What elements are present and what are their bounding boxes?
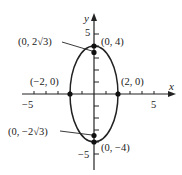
y-axis-arrow-icon (91, 13, 97, 21)
label-bottom-focus: (0, −2√3) (8, 126, 48, 138)
y-axis-label: y (83, 12, 89, 24)
label-left-covertex: (−2, 0) (30, 76, 59, 88)
point-top-vertex (91, 43, 96, 48)
point-bottom-vertex (91, 139, 96, 144)
x-axis-label: x (168, 80, 174, 92)
label-right-covertex: (2, 0) (121, 76, 144, 88)
tick-label-y-pos5: 5 (85, 27, 90, 38)
tick-label-x-neg5: −5 (22, 99, 33, 110)
x-axis (22, 91, 176, 97)
point-bottom-focus (91, 133, 96, 138)
y-axis (91, 13, 99, 170)
tick-label-y-neg5: −5 (78, 149, 89, 160)
label-bottom-vertex: (0, −4) (101, 142, 130, 154)
ellipse-graph: x y −5 5 5 −5 (0, 4) (0, 2√3) (−2, 0) (2… (0, 0, 182, 175)
point-right-covertex (115, 91, 120, 96)
point-top-focus (91, 50, 96, 55)
point-left-covertex (67, 91, 72, 96)
tick-label-x-pos5: 5 (151, 99, 156, 110)
label-top-vertex: (0, 4) (101, 36, 124, 48)
leader-top-focus (62, 42, 92, 51)
leader-bottom-focus (60, 131, 92, 135)
label-top-focus: (0, 2√3) (18, 36, 52, 48)
